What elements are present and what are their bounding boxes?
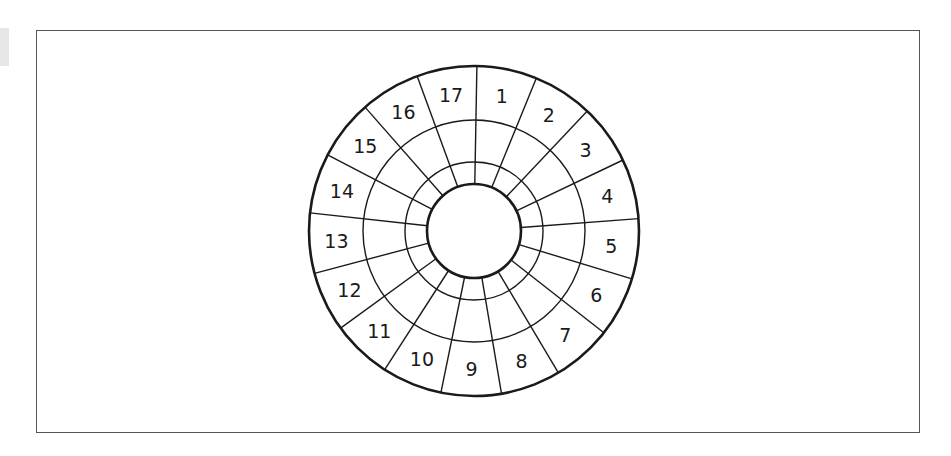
sector-label-2: 2 bbox=[543, 104, 555, 126]
sector-label-4: 4 bbox=[601, 185, 613, 207]
center-circle bbox=[427, 184, 521, 278]
sector-label-6: 6 bbox=[590, 284, 602, 306]
sector-label-8: 8 bbox=[516, 350, 528, 372]
sector-divider-line bbox=[475, 66, 477, 184]
sector-divider-line bbox=[498, 271, 558, 372]
sector-label-10: 10 bbox=[410, 348, 434, 370]
sector-label-1: 1 bbox=[496, 85, 508, 107]
sector-label-3: 3 bbox=[580, 139, 592, 161]
sector-divider-line bbox=[310, 213, 427, 226]
sector-label-15: 15 bbox=[353, 135, 377, 157]
sector-divider-line bbox=[521, 219, 639, 228]
sector-label-17: 17 bbox=[439, 84, 463, 106]
sector-label-13: 13 bbox=[324, 230, 348, 252]
sector-diagram: 1234567891011121314151617 bbox=[0, 0, 951, 456]
sector-label-9: 9 bbox=[466, 358, 478, 380]
sector-label-16: 16 bbox=[391, 101, 415, 123]
sector-label-7: 7 bbox=[559, 324, 571, 346]
sector-divider-line bbox=[441, 277, 465, 393]
sector-label-11: 11 bbox=[367, 320, 391, 342]
sector-label-14: 14 bbox=[330, 180, 354, 202]
sector-label-12: 12 bbox=[337, 279, 361, 301]
sector-label-5: 5 bbox=[605, 235, 617, 257]
